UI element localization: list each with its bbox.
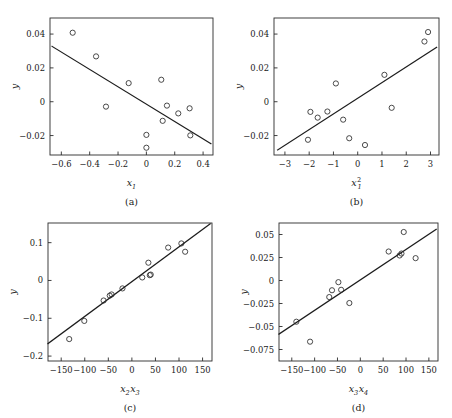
data-point [160, 118, 165, 123]
subplot-c: −150−100−500501001500.10−0.1−0.2yx2x3(c) [0, 209, 226, 418]
subplot-b-canvas: −3−2−101230.040.020−0.02yx21(b) [226, 0, 452, 209]
data-point [339, 287, 344, 292]
x-tick-label-d-6: 150 [421, 365, 437, 375]
panel-caption-d: (d) [352, 402, 365, 413]
data-point [362, 142, 367, 147]
data-point [333, 81, 338, 86]
data-point [188, 133, 193, 138]
x-tick-label-c-3: 0 [129, 365, 134, 375]
data-point [307, 339, 312, 344]
x-tick-label-d-3: 0 [358, 365, 363, 375]
data-point [336, 280, 341, 285]
y-axis-title-c: y [7, 289, 18, 296]
data-point [159, 77, 164, 82]
x-tick-label-b-1: −2 [303, 159, 315, 169]
regression-line-b [278, 47, 437, 149]
data-point [401, 229, 406, 234]
y-tick-label-a-0: 0.04 [26, 29, 45, 39]
subplot-c-canvas: −150−100−500501001500.10−0.1−0.2yx2x3(c) [0, 209, 226, 418]
y-axis-title-b: y [233, 83, 244, 90]
y-tick-label-c-0: 0.1 [30, 238, 43, 248]
y-axis-title-a: y [9, 83, 20, 90]
x-tick-label-a-3: 0 [144, 159, 149, 169]
data-point [329, 288, 334, 293]
subplot-d-canvas: −150−100−500501001500.050.0250−0.025−0.0… [226, 209, 452, 418]
y-axis-title-d: y [238, 289, 249, 296]
y-tick-label-a-3: −0.02 [19, 131, 45, 141]
data-point [67, 336, 72, 341]
y-tick-label-d-4: −0.05 [248, 322, 274, 332]
y-tick-label-b-3: −0.02 [243, 131, 269, 141]
data-point [176, 111, 181, 116]
data-point [146, 260, 151, 265]
data-point [386, 249, 391, 254]
x-axis-title-a: x1 [127, 177, 137, 191]
data-point [164, 103, 169, 108]
y-tick-label-a-1: 0.02 [26, 63, 45, 73]
regression-line-c [48, 224, 210, 344]
y-tick-label-b-2: 0 [264, 97, 269, 107]
data-point [144, 132, 149, 137]
data-point [389, 105, 394, 110]
panel-caption-b: (b) [350, 196, 363, 207]
y-tick-label-a-2: 0 [40, 97, 45, 107]
data-point [382, 72, 387, 77]
x-tick-label-c-0: −150 [50, 365, 73, 375]
x-tick-label-b-5: 2 [404, 159, 409, 169]
panel-caption-a: (a) [125, 196, 138, 207]
figure-panel-grid: −0.6−0.4−0.200.20.40.040.020−0.02yx1(a) … [0, 0, 452, 418]
x-tick-label-c-4: 50 [150, 365, 161, 375]
data-point [70, 30, 75, 35]
data-point [140, 275, 145, 280]
subplot-a-canvas: −0.6−0.4−0.200.20.40.040.020−0.02yx1(a) [0, 0, 226, 209]
data-point [413, 256, 418, 261]
x-tick-label-d-0: −150 [280, 365, 303, 375]
x-tick-label-c-5: 100 [171, 365, 187, 375]
data-point [144, 145, 149, 150]
x-axis-title-c: x2x3 [120, 383, 140, 397]
x-tick-label-a-2: −0.2 [108, 159, 128, 169]
subplot-a: −0.6−0.4−0.200.20.40.040.020−0.02yx1(a) [0, 0, 226, 209]
x-tick-label-d-5: 100 [398, 365, 414, 375]
y-tick-label-c-2: −0.1 [23, 313, 43, 323]
y-tick-label-b-0: 0.04 [250, 29, 269, 39]
x-axis-title-b: x21 [351, 176, 362, 190]
data-point [103, 104, 108, 109]
y-tick-label-d-5: −0.075 [243, 345, 274, 355]
plot-frame-b [274, 18, 439, 155]
x-tick-label-c-2: −50 [99, 365, 117, 375]
regression-line-a [52, 46, 211, 143]
data-point [347, 136, 352, 141]
data-point [183, 249, 188, 254]
plot-frame-a [50, 18, 213, 155]
data-point [315, 115, 320, 120]
data-point [422, 39, 427, 44]
data-point [93, 54, 98, 59]
subplot-b: −3−2−101230.040.020−0.02yx21(b) [226, 0, 452, 209]
y-tick-label-c-3: −0.2 [23, 351, 43, 361]
x-tick-label-c-1: −100 [73, 365, 96, 375]
data-point [347, 300, 352, 305]
data-point [187, 106, 192, 111]
data-point [325, 109, 330, 114]
x-tick-label-d-4: 50 [378, 365, 389, 375]
x-tick-label-b-0: −3 [279, 159, 291, 169]
y-tick-label-d-1: 0.025 [250, 253, 274, 263]
data-point [425, 29, 430, 34]
x-tick-label-d-1: −100 [303, 365, 326, 375]
y-tick-label-d-3: −0.025 [243, 299, 274, 309]
y-tick-label-d-0: 0.05 [255, 230, 274, 240]
data-point [341, 117, 346, 122]
data-point [82, 318, 87, 323]
data-point [166, 245, 171, 250]
data-point [308, 109, 313, 114]
y-tick-label-d-2: 0 [269, 276, 274, 286]
y-tick-label-b-1: 0.02 [250, 63, 269, 73]
x-axis-title-d: x3x4 [349, 383, 369, 397]
panel-caption-c: (c) [124, 402, 137, 413]
x-tick-label-b-3: 0 [355, 159, 360, 169]
x-tick-label-c-6: 150 [195, 365, 211, 375]
y-tick-label-c-1: 0 [38, 275, 43, 285]
x-tick-label-b-6: 3 [428, 159, 433, 169]
data-point [327, 294, 332, 299]
